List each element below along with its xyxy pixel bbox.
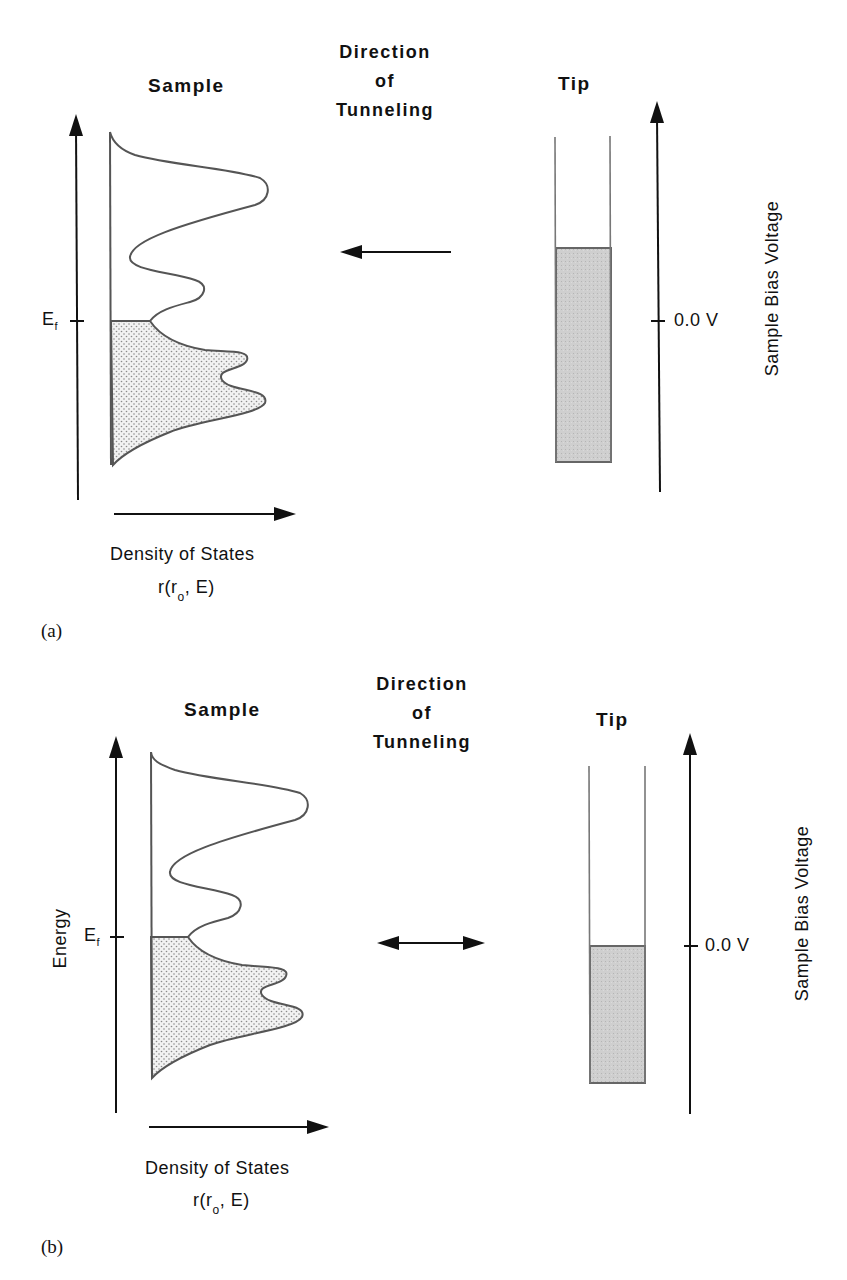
dos-func-sub: o [177, 590, 184, 604]
dos-axis-b [149, 1120, 329, 1134]
dos-label-a: Density of States [110, 544, 255, 565]
direction-line-1: Direction [357, 670, 487, 699]
dos-func-prefix: r(r [193, 1190, 212, 1210]
direction-label-b: Direction of Tunneling [357, 670, 487, 757]
bias-tick-label-a: 0.0 V [674, 310, 719, 331]
direction-line-2: of [320, 67, 450, 96]
tip-filled-states-a [556, 248, 611, 462]
fermi-sub: f [97, 936, 101, 948]
arrow-up-icon [650, 101, 664, 123]
arrow-left-icon [377, 936, 399, 950]
dos-function-b: r(ro, E) [193, 1190, 250, 1211]
arrow-right-icon [307, 1120, 329, 1134]
dos-curve-b [151, 752, 308, 937]
tip-well-b [589, 766, 645, 1083]
panel-tag-a: (a) [41, 620, 62, 642]
dos-func-suffix: , E) [185, 577, 215, 597]
bias-axis-label-a: Sample Bias Voltage [762, 199, 783, 379]
arrow-up-icon [109, 736, 123, 758]
fermi-label-a: Ef [42, 309, 58, 330]
direction-line-3: Tunneling [320, 96, 450, 125]
dos-filled-region-b [151, 937, 303, 1078]
fermi-sub: f [55, 320, 59, 332]
dos-func-suffix: , E) [220, 1190, 250, 1210]
bias-tick-label-b: 0.0 V [705, 935, 750, 956]
arrow-left-icon [340, 245, 362, 259]
tip-well-a [555, 136, 611, 462]
bias-axis-a [650, 101, 665, 492]
direction-line-3: Tunneling [357, 728, 487, 757]
sample-title-a: Sample [148, 75, 225, 97]
arrow-right-icon [274, 507, 296, 521]
panel-tag-b: (b) [41, 1236, 63, 1258]
fermi-main: E [84, 925, 97, 945]
dos-filled-region-a [111, 321, 265, 465]
arrow-up-icon [683, 733, 697, 755]
tip-title-a: Tip [558, 73, 591, 95]
dos-curve-a [110, 132, 268, 321]
tunneling-arrow-b [377, 936, 485, 950]
dos-axis-a [114, 507, 296, 521]
tip-filled-states-b [590, 946, 645, 1083]
energy-axis-b [109, 736, 124, 1113]
sample-title-b: Sample [184, 699, 261, 721]
dos-function-a: r(ro, E) [158, 577, 215, 598]
fermi-label-b: Ef [84, 925, 100, 946]
panel-a [69, 101, 665, 521]
direction-line-2: of [357, 699, 487, 728]
arrow-up-icon [69, 114, 83, 136]
dos-label-b: Density of States [145, 1158, 290, 1179]
bias-axis-b [683, 733, 698, 1114]
tunneling-arrow-a [340, 245, 451, 259]
direction-label-a: Direction of Tunneling [320, 38, 450, 125]
dos-baseline-b [151, 752, 152, 1078]
bias-axis-label-b: Sample Bias Voltage [792, 824, 813, 1004]
panel-b [109, 733, 698, 1134]
tip-title-b: Tip [596, 709, 629, 731]
direction-line-1: Direction [320, 38, 450, 67]
tunneling-diagram [0, 0, 847, 1280]
dos-func-prefix: r(r [158, 577, 177, 597]
dos-func-sub: o [212, 1203, 219, 1217]
arrow-right-icon [463, 936, 485, 950]
energy-axis-label-b: Energy [50, 899, 71, 979]
fermi-main: E [42, 309, 55, 329]
dos-baseline-a [110, 132, 111, 465]
energy-axis-a [69, 114, 84, 500]
